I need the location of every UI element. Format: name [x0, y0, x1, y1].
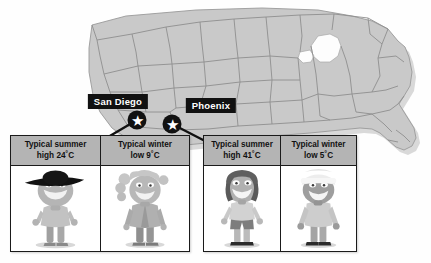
header-line-2: high 41˚C	[223, 151, 260, 161]
column-header-san-diego-winter: Typical winter low 9˚C	[101, 136, 189, 166]
column-header-phoenix-summer: Typical summer high 41˚C	[204, 136, 280, 166]
character-summer-shorts-icon	[204, 166, 280, 251]
header-line-1: Typical winter	[118, 140, 172, 150]
column-header-phoenix-winter: Typical winter low 5˚C	[281, 136, 356, 166]
character-winter-jacket-icon	[101, 166, 189, 251]
infographic-canvas: San Diego ★ Phoenix ★ Typical summer hig…	[0, 0, 431, 263]
star-glyph: ★	[166, 116, 179, 131]
header-line-2: low 5˚C	[304, 151, 333, 161]
column-san-diego-summer: Typical summer high 24˚C	[11, 136, 100, 251]
character-winter-beanie-icon	[281, 166, 356, 251]
column-figure-san-diego-summer	[11, 166, 100, 251]
column-header-san-diego-summer: Typical summer high 24˚C	[11, 136, 100, 166]
star-marker-icon-san-diego: ★	[128, 111, 147, 130]
character-summer-hat-icon	[11, 166, 100, 251]
city-label-phoenix: Phoenix	[186, 98, 236, 113]
header-line-2: low 9˚C	[130, 151, 159, 161]
column-figure-phoenix-winter	[281, 166, 356, 251]
column-figure-phoenix-summer	[204, 166, 280, 251]
column-phoenix-winter: Typical winter low 5˚C	[280, 136, 356, 251]
header-line-2: high 24˚C	[37, 151, 74, 161]
star-glyph: ★	[131, 112, 144, 127]
panel-san-diego: Typical summer high 24˚C	[10, 135, 190, 252]
column-san-diego-winter: Typical winter low 9˚C	[100, 136, 189, 251]
header-line-1: Typical winter	[292, 140, 346, 150]
marker-disc: ★	[163, 115, 182, 134]
column-phoenix-summer: Typical summer high 41˚C	[204, 136, 280, 251]
header-line-1: Typical summer	[211, 140, 273, 150]
marker-disc: ★	[128, 111, 147, 130]
star-marker-icon-phoenix: ★	[163, 115, 182, 134]
city-label-san-diego: San Diego	[88, 94, 148, 109]
header-line-1: Typical summer	[25, 140, 87, 150]
column-figure-san-diego-winter	[101, 166, 189, 251]
panel-phoenix: Typical summer high 41˚C	[203, 135, 357, 252]
